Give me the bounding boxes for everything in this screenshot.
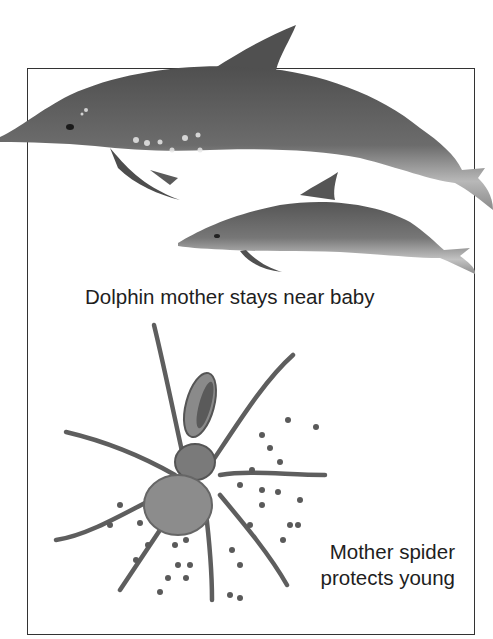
spider-caption-line-1: Mother spider <box>235 539 455 565</box>
dolphin-mother-illustration <box>0 25 493 210</box>
dolphin-caption: Dolphin mother stays near baby <box>85 284 374 310</box>
dolphin-calf-illustration <box>178 172 475 274</box>
spider-caption-line-2: protects young <box>235 565 455 591</box>
spider-caption: Mother spider protects young <box>235 539 455 591</box>
